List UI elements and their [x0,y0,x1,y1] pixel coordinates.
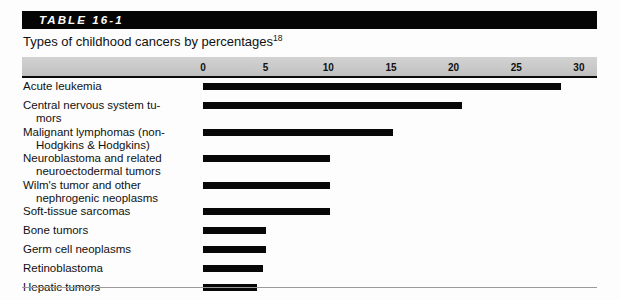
category-label-line2: Hodgkins & Hodgkins) [23,139,193,152]
category-label: Wilm's tumor and othernephrogenic neopla… [23,179,193,205]
table-bottom-rule [22,287,597,288]
x-axis-tick-10: 10 [323,61,334,72]
category-label-line1: Central nervous system tu- [23,99,160,111]
table-number-label: TABLE 16-1 [39,14,124,26]
category-label-line1: Acute leukemia [23,80,102,92]
category-label: Bone tumors [23,224,193,237]
value-bar [203,155,330,162]
category-label-line1: Malignant lymphomas (non- [23,126,165,138]
x-axis-tick-30: 30 [573,61,584,72]
category-label: Malignant lymphomas (non-Hodgkins & Hodg… [23,126,193,152]
category-label-line2: neuroectodermal tumors [23,165,193,178]
value-bar [203,102,462,109]
chart-row: Hepatic tumors [0,281,620,300]
chart-row: Central nervous system tu-mors [0,99,620,126]
chart-row: Retinoblastoma [0,262,620,281]
table-title-bar: TABLE 16-1 [22,11,597,29]
category-label: Germ cell neoplasms [23,243,193,256]
chart-row: Wilm's tumor and othernephrogenic neopla… [0,179,620,206]
category-label: Neuroblastoma and relatedneuroectodermal… [23,152,193,178]
chart-row: Soft-tissue sarcomas [0,205,620,224]
x-axis-tick-25: 25 [511,61,522,72]
chart-row: Malignant lymphomas (non-Hodgkins & Hodg… [0,126,620,153]
category-label: Soft-tissue sarcomas [23,205,193,218]
category-label-line1: Neuroblastoma and related [23,152,162,164]
x-axis-tick-5: 5 [263,61,269,72]
table-figure: TABLE 16-1 Types of childhood cancers by… [0,0,620,300]
category-label-line1: Soft-tissue sarcomas [23,205,130,217]
x-axis-tick-15: 15 [385,61,396,72]
value-bar [203,83,561,90]
value-bar [203,208,330,215]
chart-row: Bone tumors [0,224,620,243]
value-bar [203,129,393,136]
chart-row: Germ cell neoplasms [0,243,620,262]
category-label-line1: Bone tumors [23,224,88,236]
category-label: Central nervous system tu-mors [23,99,193,125]
category-label: Retinoblastoma [23,262,193,275]
category-label-line2: nephrogenic neoplasms [23,192,193,205]
chart-row: Neuroblastoma and relatedneuroectodermal… [0,152,620,179]
x-axis-tick-20: 20 [448,61,459,72]
chart-row: Acute leukemia [0,80,620,99]
x-axis-tick-0: 0 [200,61,206,72]
table-caption: Types of childhood cancers by percentage… [23,34,283,49]
chart-rows: Acute leukemiaCentral nervous system tu-… [0,80,620,300]
category-label-line1: Germ cell neoplasms [23,243,131,255]
category-label: Acute leukemia [23,80,193,93]
table-caption-text: Types of childhood cancers by percentage… [23,34,273,49]
x-axis-header-band: 051015202530 [22,57,597,78]
value-bar [203,246,266,253]
value-bar [203,265,263,272]
category-label-line1: Wilm's tumor and other [23,179,141,191]
category-label-line2: mors [23,112,193,125]
value-bar [203,182,330,189]
table-caption-superscript: 18 [273,33,282,43]
category-label-line1: Retinoblastoma [23,262,103,274]
value-bar [203,227,266,234]
